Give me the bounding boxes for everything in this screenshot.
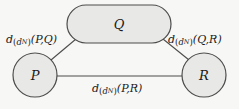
edge-label-p-r: d(dN)(P,R)	[92, 83, 142, 96]
edge-label-pr-base: d	[92, 82, 99, 95]
edge-label-p-q: d(dN)(P,Q)	[6, 34, 57, 47]
edge-label-pq-base: d	[6, 33, 13, 46]
node-label-p: P	[27, 68, 43, 83]
edge-label-pr-args: (P,R)	[117, 82, 143, 95]
graph-diagram-figure: P Q R d(dN)(P,Q) d(dN)(Q,R) d(dN)(P,R)	[0, 0, 239, 109]
node-label-r: R	[196, 68, 212, 83]
node-label-q: Q	[111, 17, 127, 32]
edge-label-qr-args: (Q,R)	[193, 33, 222, 46]
edge-label-qr-base: d	[168, 33, 175, 46]
edge-label-q-r: d(dN)(Q,R)	[168, 34, 222, 47]
edge-label-pq-args: (P,Q)	[31, 33, 57, 46]
